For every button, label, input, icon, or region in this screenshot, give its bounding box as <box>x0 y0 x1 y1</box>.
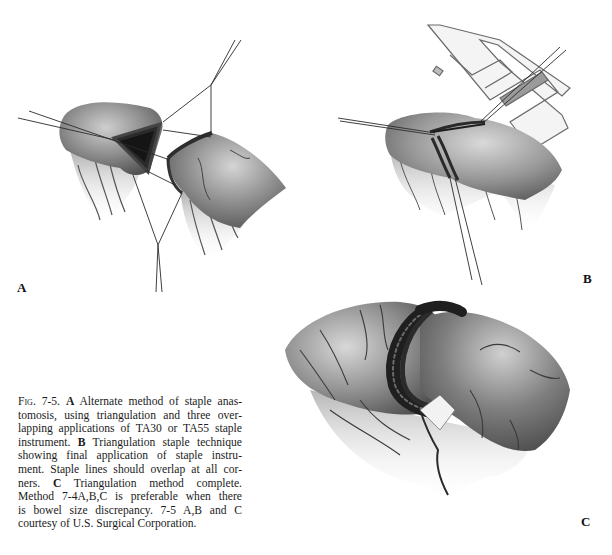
caption-line: courtesy of U.S. Surgical Corporation. <box>18 517 242 531</box>
completed-anastomosis-illustration-c <box>270 290 612 555</box>
caption-line: tomosis, using triangulation and three o… <box>18 409 242 423</box>
staple-instrument-illustration-b <box>300 0 612 300</box>
panel-label-c: C <box>581 514 590 530</box>
caption-line: Method 7-4A,B,C is preferable when there <box>18 490 242 504</box>
caption-line: instrument. B Triangulation staple techn… <box>18 436 242 450</box>
caption-line: ners. C Triangulation method complete. <box>18 477 242 491</box>
figure-panel-c <box>270 290 612 555</box>
panel-label-a: A <box>17 280 26 296</box>
caption-line: is bowel size discrepancy. 7-5 A,B and C <box>18 504 242 518</box>
caption-line: lapping applications of TA30 or TA55 sta… <box>18 422 242 436</box>
panel-label-b: B <box>583 271 592 287</box>
figure-caption: Fig. 7-5. A Alternate method of staple a… <box>18 395 242 531</box>
caption-line: showing final application of staple inst… <box>18 449 242 463</box>
bowel-triangulation-illustration-a <box>0 0 300 300</box>
caption-line: ment. Staple lines should overlap at all… <box>18 463 242 477</box>
caption-line: Fig. 7-5. A Alternate method of staple a… <box>18 395 242 409</box>
figure-panel-b <box>300 0 612 300</box>
figure-panel-a <box>0 0 300 300</box>
